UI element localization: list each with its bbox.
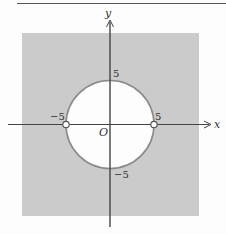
tick-label-x-pos5: 5: [155, 111, 161, 122]
tick-label-y-neg5: −5: [114, 169, 129, 180]
graph-figure: y x O −5 5 5 −5: [0, 0, 226, 234]
y-axis-label: y: [104, 7, 112, 20]
open-point-neg5: [63, 121, 69, 127]
tick-label-x-neg5: −5: [50, 111, 65, 122]
origin-label: O: [99, 126, 108, 139]
x-axis-label: x: [214, 118, 221, 131]
tick-label-y-pos5: 5: [113, 68, 119, 79]
open-point-pos5: [151, 121, 157, 127]
